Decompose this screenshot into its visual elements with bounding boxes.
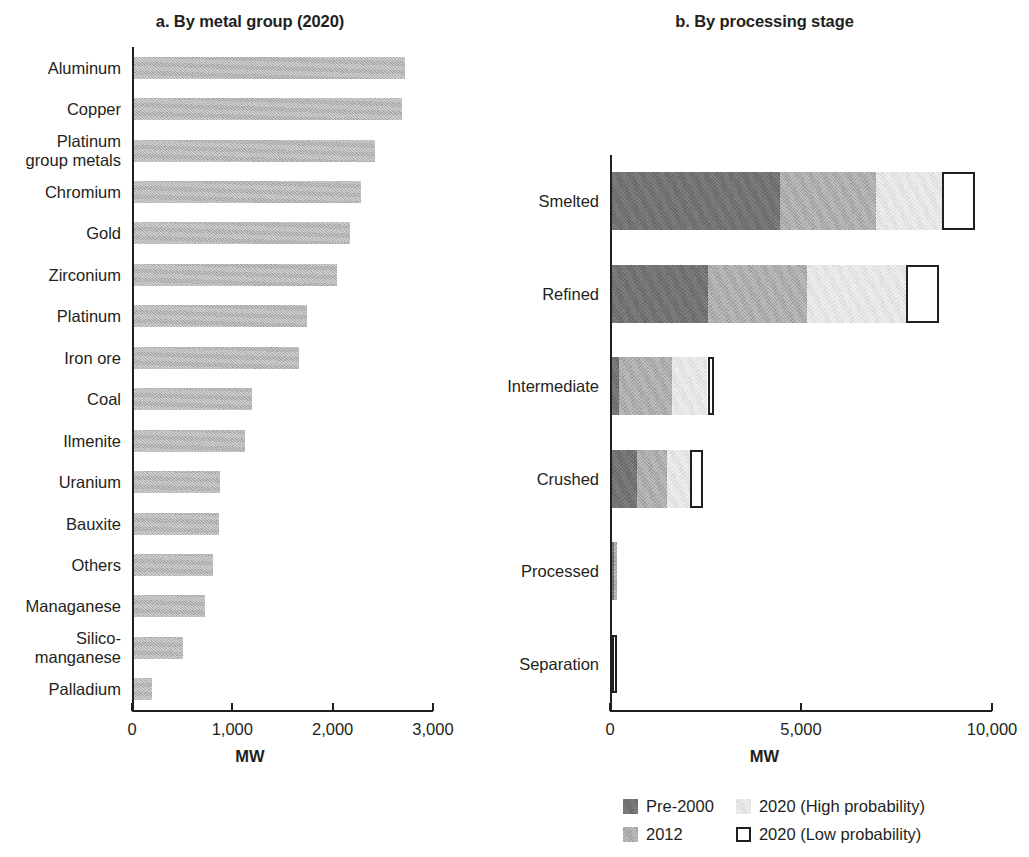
segment-2012 (708, 265, 807, 323)
segment-2020-low-probability (708, 357, 715, 415)
panel-by-metal-group: a. By metal group (2020) AluminumCopperP… (0, 0, 500, 857)
bar-row: Uranium (132, 461, 433, 502)
bar-row: Managanese (132, 586, 433, 627)
bar-row: Zirconium (132, 254, 433, 295)
bar-row-label: Intermediate (439, 377, 610, 396)
bar-row-label: Bauxite (0, 514, 132, 533)
segment-2020-low-probability (906, 265, 938, 323)
bar-row: Processed (610, 525, 992, 618)
bar-row-label: Smelted (439, 192, 610, 211)
panel-a-title: a. By metal group (2020) (0, 12, 500, 31)
panel-by-processing-stage: b. By processing stage SmeltedRefinedInt… (500, 0, 1029, 857)
legend-item: 2012 (623, 825, 714, 844)
x-tick-label: 2,000 (312, 720, 353, 739)
bar-row-label: Palladium (0, 680, 132, 699)
x-tick (332, 703, 334, 711)
bar-row: Silico- manganese (132, 627, 433, 668)
bar (134, 222, 350, 244)
bar-row: Gold (132, 213, 433, 254)
panel-b-plot-area: SmeltedRefinedIntermediateCrushedProcess… (610, 155, 992, 710)
bar (134, 347, 299, 369)
bar-row: Ilmenite (132, 420, 433, 461)
segment-pre-2000 (612, 172, 780, 230)
segment-2020-low-probability (942, 172, 974, 230)
legend-swatch-fill (623, 799, 638, 814)
stacked-bar (612, 450, 703, 508)
panel-a-x-axis-title: MW (0, 747, 500, 766)
bar-row: Others (132, 544, 433, 585)
bar-row-label: Zirconium (0, 265, 132, 284)
figure-root: a. By metal group (2020) AluminumCopperP… (0, 0, 1029, 857)
x-tick-label: 0 (127, 720, 136, 739)
panel-b-title: b. By processing stage (500, 12, 1029, 31)
bar (134, 181, 361, 203)
panel-a-x-axis-line (132, 710, 433, 712)
bar (134, 140, 375, 162)
x-tick (131, 703, 133, 711)
segment-2020-low-probability (612, 635, 617, 693)
bar-row-label: Platinum group metals (0, 132, 132, 170)
legend-swatch-fill (623, 827, 638, 842)
bar-row: Copper (132, 88, 433, 129)
bar (134, 98, 402, 120)
bar-row: Platinum group metals (132, 130, 433, 171)
bar-row: Palladium (132, 669, 433, 710)
bar-row-label: Refined (439, 284, 610, 303)
segment-2012 (637, 450, 668, 508)
bar-row: Refined (610, 248, 992, 341)
x-tick (800, 703, 802, 711)
panel-b-x-axis-title: MW (500, 747, 1029, 766)
bar-row: Separation (610, 618, 992, 711)
legend-label: 2020 (Low probability) (759, 825, 921, 844)
chart-legend: Pre-20002020 (High probability)20122020 … (623, 797, 925, 844)
segment-2012 (614, 542, 617, 600)
x-tick (231, 703, 233, 711)
bar-row-label: Processed (439, 562, 610, 581)
x-tick-label: 3,000 (412, 720, 453, 739)
bar (134, 513, 219, 535)
bar (134, 554, 213, 576)
bar-row: Aluminum (132, 47, 433, 88)
bar-row-label: Others (0, 555, 132, 574)
segment-pre-2000 (612, 357, 619, 415)
bar (134, 471, 220, 493)
x-tick-label: 1,000 (212, 720, 253, 739)
segment-2020-high-probability (807, 265, 906, 323)
stacked-bar (612, 635, 617, 693)
bar (134, 388, 252, 410)
legend-label: Pre-2000 (646, 797, 714, 816)
bar (134, 637, 183, 659)
stacked-bar (612, 357, 714, 415)
x-tick-label: 10,000 (967, 720, 1017, 739)
segment-2020-high-probability (667, 450, 689, 508)
bar-row-label: Copper (0, 100, 132, 119)
bar-row-label: Ilmenite (0, 431, 132, 450)
bar-row: Chromium (132, 171, 433, 212)
legend-swatch-outline (736, 827, 751, 842)
bar (134, 430, 245, 452)
bar-row: Smelted (610, 155, 992, 248)
bar-row-label: Gold (0, 224, 132, 243)
legend-item: Pre-2000 (623, 797, 714, 816)
bar-row-label: Chromium (0, 183, 132, 202)
bar-row-label: Silico- manganese (0, 629, 132, 667)
legend-label: 2012 (646, 825, 683, 844)
x-tick-label: 0 (605, 720, 614, 739)
bar (134, 305, 307, 327)
bar-row: Coal (132, 379, 433, 420)
bar-row-label: Uranium (0, 473, 132, 492)
legend-label: 2020 (High probability) (759, 797, 925, 816)
x-tick (432, 703, 434, 711)
stacked-bar (612, 265, 939, 323)
legend-item: 2020 (High probability) (736, 797, 925, 816)
bar (134, 595, 205, 617)
x-tick-label: 5,000 (780, 720, 821, 739)
bar (134, 264, 337, 286)
bar-row-label: Managanese (0, 597, 132, 616)
segment-2020-high-probability (672, 357, 707, 415)
segment-2012 (619, 357, 672, 415)
x-tick (609, 703, 611, 711)
bar-row: Iron ore (132, 337, 433, 378)
bar (134, 57, 405, 79)
bar-row: Platinum (132, 296, 433, 337)
